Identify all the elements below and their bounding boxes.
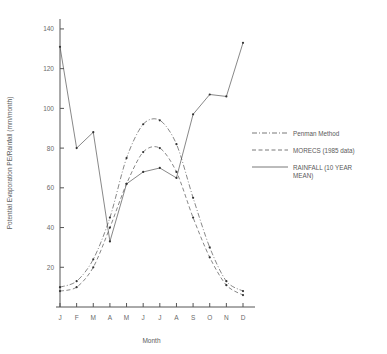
x-tick-label-2: M — [91, 314, 96, 321]
data-point — [142, 123, 144, 125]
x-tick-label-8: S — [191, 314, 196, 321]
data-point — [76, 286, 78, 288]
data-point — [242, 294, 244, 296]
data-point — [159, 167, 161, 169]
series-line-2 — [60, 147, 243, 295]
data-point — [175, 171, 177, 173]
series-2 — [59, 147, 244, 297]
data-point — [125, 157, 127, 159]
y-tick-labels: 20406080100120140 — [43, 25, 54, 270]
data-point — [209, 256, 211, 258]
axes-group — [56, 19, 255, 307]
data-point — [192, 197, 194, 199]
y-tick-label-120: 120 — [43, 65, 54, 72]
y-tick-label-20: 20 — [47, 264, 55, 271]
y-tick-label-60: 60 — [47, 184, 55, 191]
data-point — [175, 143, 177, 145]
data-point — [242, 290, 244, 292]
data-point — [109, 240, 111, 242]
y-tick-label-80: 80 — [47, 145, 55, 152]
x-tick-label-6: J — [158, 314, 161, 321]
y-tick-label-100: 100 — [43, 105, 54, 112]
x-tick-label-9: O — [207, 314, 212, 321]
data-point — [209, 246, 211, 248]
x-tick-label-11: D — [241, 314, 246, 321]
y-tick-label-140: 140 — [43, 25, 54, 32]
data-point — [142, 151, 144, 153]
x-tick-label-3: A — [108, 314, 113, 321]
x-axis-title: Month — [142, 337, 160, 344]
legend-label-2: MORECS (1985 data) — [293, 147, 355, 155]
x-tick-labels: JFMAMJJASOND — [58, 314, 245, 321]
legend-label-3-line2: MEAN) — [293, 172, 313, 180]
series-group — [59, 42, 244, 296]
data-point — [225, 284, 227, 286]
data-point — [76, 147, 78, 149]
data-point — [192, 217, 194, 219]
chart-figure: JFMAMJJASOND 20406080100120140 Penman Me… — [0, 0, 387, 354]
legend-label-1: Penman Method — [293, 130, 340, 137]
data-point — [159, 147, 161, 149]
data-point — [225, 280, 227, 282]
x-tick-label-0: J — [58, 314, 61, 321]
data-point — [225, 95, 227, 97]
data-point — [59, 290, 61, 292]
data-point — [209, 93, 211, 95]
legend-item-2[interactable]: MORECS (1985 data) — [252, 147, 355, 155]
data-point — [59, 286, 61, 288]
line-chart-canvas: JFMAMJJASOND 20406080100120140 Penman Me… — [0, 0, 387, 354]
series-line-1 — [60, 119, 243, 291]
legend-item-3[interactable]: RAINFALL (10 YEARMEAN) — [252, 164, 353, 180]
series-1 — [59, 119, 244, 292]
x-tick-label-7: A — [174, 314, 179, 321]
data-point — [142, 171, 144, 173]
y-axis-title: Potential Evaporation PE/Rainfall (mm/mo… — [6, 97, 14, 230]
legend-label-3: RAINFALL (10 YEAR — [293, 164, 353, 172]
chart-legend: Penman MethodMORECS (1985 data)RAINFALL … — [252, 130, 355, 180]
data-point — [109, 226, 111, 228]
x-tick-label-1: F — [75, 314, 79, 321]
data-point — [242, 42, 244, 44]
data-point — [192, 113, 194, 115]
x-tick-label-10: N — [224, 314, 229, 321]
data-point — [92, 131, 94, 133]
data-point — [125, 183, 127, 185]
series-line-3 — [60, 43, 243, 242]
data-point — [92, 258, 94, 260]
data-point — [76, 280, 78, 282]
series-3 — [59, 42, 244, 243]
data-point — [175, 177, 177, 179]
x-tick-label-5: J — [142, 314, 145, 321]
data-point — [159, 119, 161, 121]
x-tick-label-4: M — [124, 314, 129, 321]
data-point — [109, 217, 111, 219]
data-point — [92, 266, 94, 268]
data-point — [59, 46, 61, 48]
y-tick-label-40: 40 — [47, 224, 55, 231]
legend-item-1[interactable]: Penman Method — [252, 130, 340, 137]
